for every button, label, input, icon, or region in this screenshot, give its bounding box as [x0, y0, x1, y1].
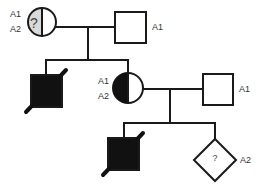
individual-iii2-unknown-sex[interactable]: ? — [194, 139, 236, 181]
individual-ii3-male[interactable] — [203, 74, 233, 105]
allele-label: A2 — [240, 155, 251, 165]
individual-ii1-male-affected-deceased[interactable] — [26, 70, 66, 112]
allele-label: A1 — [239, 84, 250, 94]
pedigree-diagram: ? A1 A2 A1 A1 A2 A1 ? A2 — [0, 0, 265, 190]
individual-ii2-female-carrier[interactable] — [113, 73, 143, 103]
carrier-fill — [113, 73, 128, 103]
individual-i2-male[interactable] — [115, 12, 146, 43]
allele-label: A2 — [98, 91, 109, 101]
allele-label: A1 — [98, 76, 109, 86]
allele-label: A2 — [10, 24, 21, 34]
individual-iii1-male-affected-deceased[interactable] — [103, 133, 143, 175]
unknown-mark: ? — [30, 15, 38, 31]
unknown-mark: ? — [212, 153, 217, 163]
allele-label: A1 — [10, 9, 21, 19]
allele-label: A1 — [152, 22, 163, 32]
individual-i1-female[interactable]: ? — [28, 8, 56, 36]
